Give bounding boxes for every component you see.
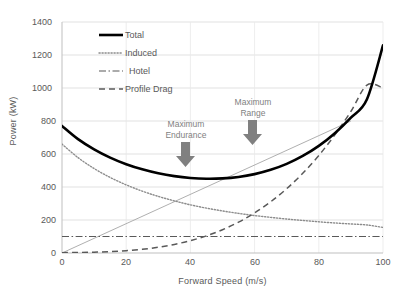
power-vs-forward-speed-chart: Power (kW) Forward Speed (m/s) 0 200 400… <box>0 0 405 299</box>
plot-canvas <box>0 0 405 299</box>
legend-item-total[interactable]: Total <box>125 30 144 40</box>
maximum-range-arrow-icon <box>243 120 262 145</box>
legend-item-hotel[interactable]: Hotel <box>129 66 150 76</box>
maximum-endurance-arrow-icon <box>176 142 195 167</box>
annotation-maximum-endurance: Maximum Endurance <box>148 119 224 140</box>
annotation-maximum-range: Maximum Range <box>215 97 291 118</box>
legend-item-profile-drag[interactable]: Profile Drag <box>125 84 173 94</box>
legend-item-induced[interactable]: Induced <box>125 48 157 58</box>
